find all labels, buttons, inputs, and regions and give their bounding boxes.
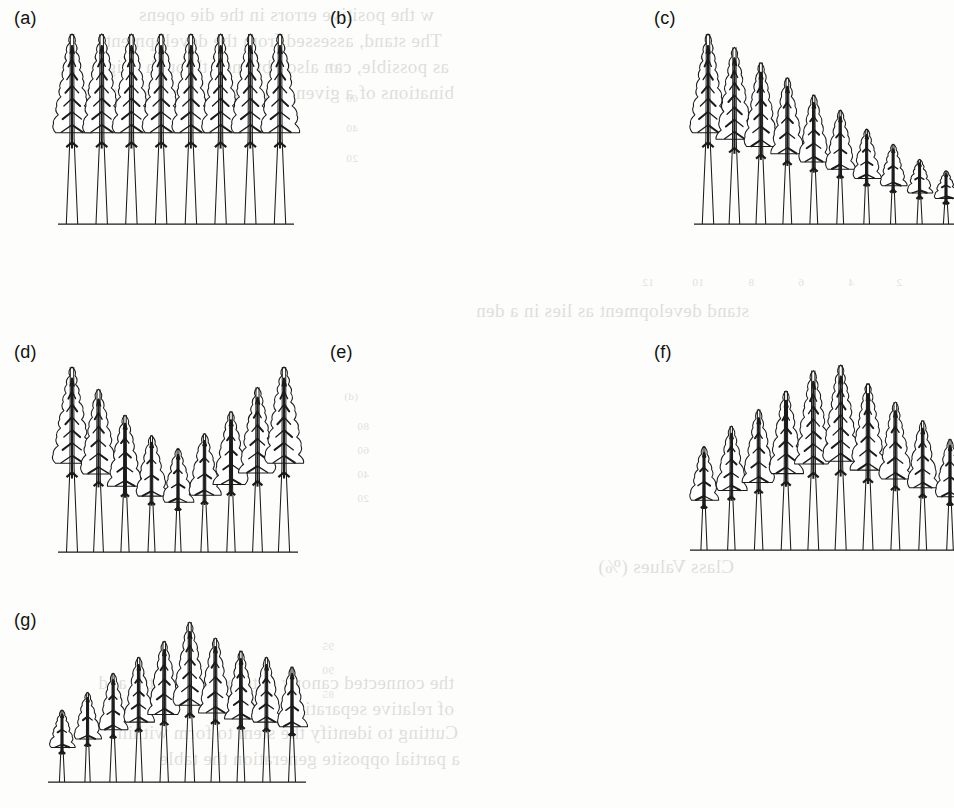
tree-stand-g bbox=[14, 604, 332, 800]
panel-g: (g) bbox=[14, 604, 344, 804]
stand-canvas-d bbox=[14, 340, 324, 570]
tree bbox=[163, 448, 194, 552]
panel-c: (c) bbox=[648, 6, 954, 326]
tree-stand-a bbox=[14, 6, 320, 242]
tree bbox=[50, 710, 76, 782]
tree bbox=[265, 367, 304, 552]
tree bbox=[107, 415, 141, 552]
tree bbox=[261, 34, 300, 224]
panel-a: (a) bbox=[14, 6, 314, 326]
stand-canvas-f bbox=[648, 340, 954, 568]
stand-canvas-a bbox=[14, 6, 320, 242]
tree-stand-f bbox=[648, 340, 954, 568]
tree bbox=[74, 692, 101, 782]
tree bbox=[99, 673, 128, 782]
tree bbox=[189, 434, 221, 552]
panel-d: (d) bbox=[14, 340, 314, 590]
tree bbox=[213, 411, 248, 552]
stand-canvas-c bbox=[648, 6, 954, 242]
stand-canvas-g bbox=[14, 604, 332, 800]
tree bbox=[124, 657, 155, 782]
tree bbox=[278, 667, 308, 782]
panel-f: (f) bbox=[648, 340, 954, 590]
tree-stand-c bbox=[648, 6, 954, 242]
tree-stand-d bbox=[14, 340, 324, 570]
panel-e: (e) bbox=[330, 340, 640, 590]
tree bbox=[148, 641, 180, 782]
tree bbox=[199, 638, 232, 782]
panel-b: (b) bbox=[330, 6, 640, 326]
tree bbox=[239, 387, 276, 552]
canopy-profile-figure: (a)(b)(c)(d)(e)(f)(g) bbox=[0, 0, 954, 808]
